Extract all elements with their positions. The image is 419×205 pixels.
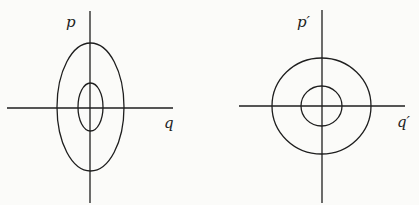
- left-panel: p q: [7, 11, 174, 203]
- q-prime-label: q′: [397, 113, 411, 131]
- figure: p q p′ q′: [0, 0, 419, 205]
- p-label: p: [66, 13, 76, 31]
- right-panel: p′ q′: [239, 10, 411, 203]
- p-prime-label: p′: [297, 13, 311, 31]
- q-label: q: [164, 114, 174, 132]
